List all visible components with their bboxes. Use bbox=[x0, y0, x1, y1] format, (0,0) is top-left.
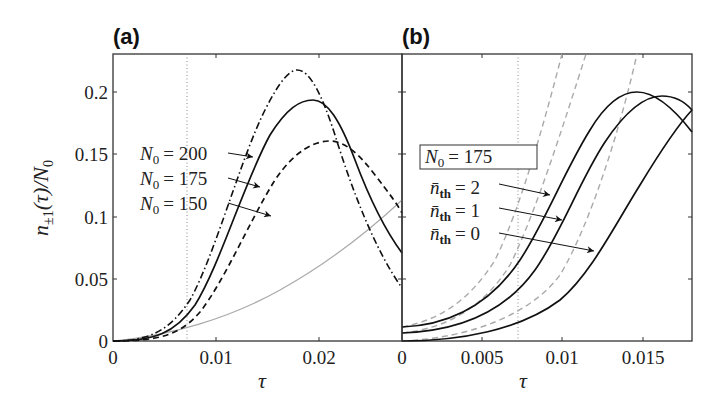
a-xtick-0: 0 bbox=[108, 347, 118, 368]
a-annotation-200: N0= 200 bbox=[139, 143, 253, 167]
a-xtick-001: 0.01 bbox=[199, 347, 232, 368]
a-ytick-015: 0.15 bbox=[75, 144, 108, 165]
b-xtick-001: 0.01 bbox=[545, 347, 578, 368]
svg-text:N0= 150: N0= 150 bbox=[139, 193, 207, 217]
b-xtick-0015: 0.015 bbox=[622, 347, 665, 368]
svg-text:n̄th= 0: n̄th= 0 bbox=[430, 223, 480, 247]
panel-a-xticks bbox=[216, 54, 319, 341]
b-approx-nth-2 bbox=[402, 54, 562, 327]
b-annotation-nth-0: n̄th= 0 bbox=[430, 223, 594, 251]
svg-text:N0= 200: N0= 200 bbox=[139, 143, 207, 167]
panel-b-label: (b) bbox=[402, 24, 430, 49]
b-annotation-nth-2: n̄th= 2 bbox=[430, 177, 550, 201]
b-xtick-0: 0 bbox=[397, 347, 407, 368]
svg-text:N0= 175: N0= 175 bbox=[139, 168, 207, 192]
a-ytick-02: 0.2 bbox=[84, 82, 108, 103]
a-curve-n0-175 bbox=[113, 100, 402, 341]
panel-a: 0 0.05 0.1 0.15 0.2 0 0.01 0.02 τ n±1(τ)… bbox=[28, 54, 402, 393]
svg-text:n̄th= 1: n̄th= 1 bbox=[430, 200, 480, 224]
a-ylabel: n±1(τ)/N0 bbox=[28, 160, 56, 236]
a-reference-curve bbox=[113, 200, 402, 341]
b-boxed-label: N0= 175 bbox=[420, 145, 537, 170]
svg-text:N0= 175: N0= 175 bbox=[424, 146, 492, 170]
b-xlabel: τ bbox=[519, 368, 528, 393]
panel-a-label: (a) bbox=[113, 24, 140, 49]
b-xtick-0005: 0.005 bbox=[461, 347, 504, 368]
a-xtick-002: 0.02 bbox=[302, 347, 335, 368]
a-xlabel: τ bbox=[258, 368, 267, 393]
a-ytick-01: 0.1 bbox=[84, 207, 108, 228]
a-ytick-005: 0.05 bbox=[75, 269, 108, 290]
panel-a-frame bbox=[113, 54, 402, 341]
a-ytick-0: 0 bbox=[99, 331, 109, 352]
panel-b: 0 0.005 0.01 0.015 τ N0= 175 n̄th= 2 n̄t… bbox=[397, 54, 692, 393]
svg-text:n̄th= 2: n̄th= 2 bbox=[430, 177, 480, 201]
a-annotation-150: N0= 150 bbox=[139, 193, 271, 217]
a-annotation-175: N0= 175 bbox=[139, 168, 260, 192]
figure: (a) (b) 0 0.05 0.1 0.15 0.2 0 0.01 0.02 … bbox=[0, 0, 720, 412]
